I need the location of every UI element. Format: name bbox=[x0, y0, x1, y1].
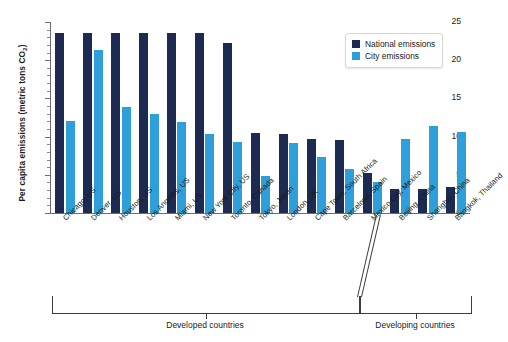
y-tick-minor bbox=[47, 83, 50, 84]
y-tick-minor bbox=[47, 182, 50, 183]
bar-group bbox=[51, 22, 79, 213]
y-tick-minor bbox=[47, 68, 50, 69]
bar-national bbox=[111, 33, 120, 213]
bar-city bbox=[457, 132, 466, 213]
bar-group bbox=[79, 22, 107, 213]
y-tick-minor bbox=[47, 30, 50, 31]
group-divider-line bbox=[357, 215, 377, 297]
bar-group bbox=[135, 22, 163, 213]
y-tick-major bbox=[45, 22, 50, 23]
bar-city bbox=[150, 114, 159, 213]
bar-group bbox=[107, 22, 135, 213]
legend-item-national: National emissions bbox=[352, 38, 435, 50]
y-axis-title: Per capita emissions (metric tons CO2) bbox=[17, 23, 27, 223]
legend-swatch-national-icon bbox=[352, 40, 360, 48]
y-tick-minor bbox=[47, 53, 50, 54]
y-axis-title-main: Per capita emissions (metric tons CO bbox=[17, 51, 27, 202]
y-tick-minor bbox=[47, 160, 50, 161]
bracket-stem bbox=[416, 313, 417, 319]
legend-label-national: National emissions bbox=[365, 39, 435, 49]
y-tick-minor bbox=[47, 114, 50, 115]
legend-swatch-city-icon bbox=[352, 52, 360, 60]
bar-group bbox=[191, 22, 219, 213]
y-tick-minor bbox=[47, 91, 50, 92]
bracket-stem bbox=[206, 313, 207, 319]
y-tick-minor bbox=[47, 152, 50, 153]
y-tick-minor bbox=[47, 121, 50, 122]
y-tick-minor bbox=[47, 205, 50, 206]
legend: National emissions City emissions bbox=[345, 33, 443, 68]
y-tick-major bbox=[45, 175, 50, 176]
y-tick-minor bbox=[47, 106, 50, 107]
y-tick-major bbox=[45, 98, 50, 99]
legend-label-city: City emissions bbox=[365, 51, 419, 61]
bar-national bbox=[195, 33, 204, 213]
y-tick-major bbox=[45, 213, 50, 214]
bar-city bbox=[66, 121, 75, 213]
y-tick-minor bbox=[47, 129, 50, 130]
y-tick-minor bbox=[47, 45, 50, 46]
y-tick-major bbox=[45, 60, 50, 61]
y-tick-minor bbox=[47, 144, 50, 145]
bar-city bbox=[122, 107, 131, 213]
bracket-developing bbox=[360, 296, 472, 314]
y-tick-minor bbox=[47, 167, 50, 168]
legend-item-city: City emissions bbox=[352, 50, 435, 62]
bar-city bbox=[429, 126, 438, 213]
y-tick-minor bbox=[47, 37, 50, 38]
y-tick-minor bbox=[47, 198, 50, 199]
bracket-label: Developing countries bbox=[320, 320, 508, 330]
bar-city bbox=[205, 134, 214, 213]
bar-national bbox=[55, 33, 64, 213]
bracket-developed bbox=[52, 296, 360, 314]
bar-city bbox=[177, 122, 186, 213]
y-tick-minor bbox=[47, 75, 50, 76]
y-tick-major bbox=[45, 137, 50, 138]
y-tick-minor bbox=[47, 190, 50, 191]
group-divider-line-2 bbox=[361, 215, 381, 297]
y-axis-title-subscript: 2 bbox=[21, 47, 28, 51]
bar-group bbox=[302, 22, 330, 213]
